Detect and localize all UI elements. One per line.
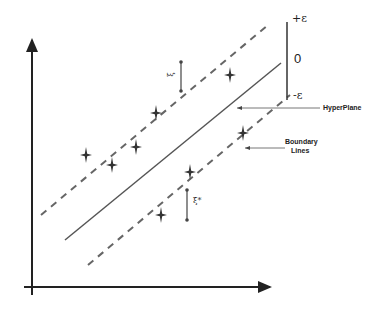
data-point xyxy=(130,139,142,155)
data-points xyxy=(80,67,249,223)
data-point xyxy=(150,105,162,121)
xi-star-label: ξ* xyxy=(193,196,201,205)
xi-label: ξ xyxy=(166,72,175,76)
xi-slack-marker xyxy=(179,60,183,93)
boundary-label-line2: Lines xyxy=(291,147,309,155)
boundary-label-line1: Boundary xyxy=(285,138,318,146)
hyperplane-label: HyperPlane xyxy=(323,104,362,112)
data-point xyxy=(155,207,167,223)
xi-star-slack-marker xyxy=(185,188,189,222)
data-point xyxy=(184,164,196,180)
data-point xyxy=(106,157,118,173)
svr-diagram xyxy=(0,0,376,311)
minus-epsilon-label: -ε xyxy=(293,89,302,102)
data-point xyxy=(224,67,236,83)
plus-epsilon-label: +ε xyxy=(292,12,307,25)
lower-boundary-line xyxy=(88,95,290,265)
zero-label: 0 xyxy=(294,51,301,66)
hyperplane-line xyxy=(65,63,281,240)
data-point xyxy=(80,147,92,163)
upper-boundary-line xyxy=(41,25,268,215)
